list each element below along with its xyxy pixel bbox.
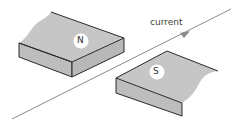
current-arrow-icon bbox=[180, 31, 190, 38]
magnet-diagram bbox=[0, 0, 242, 123]
current-label: current bbox=[150, 17, 182, 27]
north-magnet bbox=[19, 12, 124, 77]
north-pole-label: N bbox=[77, 35, 84, 45]
south-magnet bbox=[116, 51, 218, 116]
south-pole-label: S bbox=[153, 66, 159, 76]
